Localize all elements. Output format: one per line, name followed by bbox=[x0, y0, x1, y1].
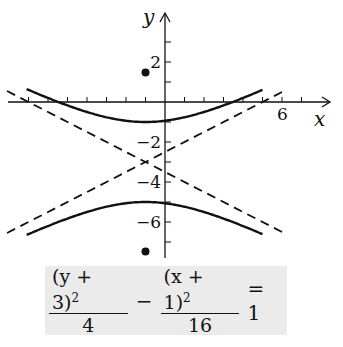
minus-sign: − bbox=[136, 289, 153, 313]
x-axis-label: x bbox=[314, 107, 325, 131]
numerator-left: (y + 3)2 bbox=[49, 265, 128, 313]
fraction-left: (y + 3)2 4 bbox=[49, 265, 128, 337]
y-tick-label: −2 bbox=[136, 132, 161, 152]
y-tick-label: −4 bbox=[136, 172, 161, 192]
equation-box: (y + 3)2 4 − (x + 1)2 16 = 1 bbox=[45, 266, 287, 335]
numerator-left-text: (y + 3) bbox=[52, 265, 92, 313]
y-ticks bbox=[165, 42, 171, 242]
equals-one: = 1 bbox=[247, 277, 283, 325]
exponent-left: 2 bbox=[72, 291, 80, 305]
y-axis-label: y bbox=[142, 5, 155, 29]
x-tick-label: 6 bbox=[277, 104, 288, 124]
tick-labels: 62−2−4−6 bbox=[136, 52, 288, 232]
focus-point bbox=[142, 69, 150, 77]
axes bbox=[8, 13, 330, 258]
focus-point bbox=[142, 247, 150, 255]
hyperbola-plot: 62−2−4−6 x y bbox=[0, 0, 343, 265]
denominator-right: 16 bbox=[185, 314, 215, 336]
upper-branch bbox=[27, 89, 263, 122]
denominator-left: 4 bbox=[79, 314, 97, 336]
y-tick-label: 2 bbox=[150, 52, 161, 72]
numerator-right: (x + 1)2 bbox=[161, 265, 240, 313]
numerator-right-text: (x + 1) bbox=[164, 265, 204, 313]
exponent-right: 2 bbox=[183, 291, 191, 305]
fraction-right: (x + 1)2 16 bbox=[161, 265, 240, 337]
y-tick-label: −6 bbox=[136, 212, 161, 232]
